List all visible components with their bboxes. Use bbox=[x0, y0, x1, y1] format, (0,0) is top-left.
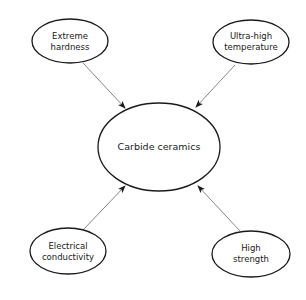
center-node-carbide-ceramics: Carbide ceramics bbox=[98, 103, 220, 191]
node-high-strength: High strength bbox=[212, 231, 290, 277]
node-extreme-hardness: Extreme hardness bbox=[32, 19, 108, 63]
node-label-line-1: Extreme bbox=[52, 31, 88, 41]
node-label-line-2: conductivity bbox=[42, 252, 94, 262]
node-label-line-2: temperature bbox=[224, 42, 277, 52]
node-label-line-1: Electrical bbox=[48, 241, 87, 251]
arrow-high-strength-to-center bbox=[198, 186, 240, 231]
node-electrical-conductivity: Electrical conductivity bbox=[30, 228, 106, 274]
center-node-label: Carbide ceramics bbox=[118, 141, 201, 152]
arrow-ultra-high-temperature-to-center bbox=[196, 65, 235, 107]
node-label-line-1: Ultra-high bbox=[230, 31, 272, 41]
node-label-line-1: High bbox=[241, 243, 261, 253]
arrow-electrical-conductivity-to-center bbox=[83, 186, 125, 230]
arrow-extreme-hardness-to-center bbox=[83, 63, 125, 108]
carbide-ceramics-diagram: Carbide ceramics Extreme hardness Ultra-… bbox=[0, 0, 306, 300]
node-label-line-2: strength bbox=[233, 254, 269, 264]
node-ultra-high-temperature: Ultra-high temperature bbox=[213, 20, 289, 64]
node-label-line-2: hardness bbox=[51, 42, 90, 52]
